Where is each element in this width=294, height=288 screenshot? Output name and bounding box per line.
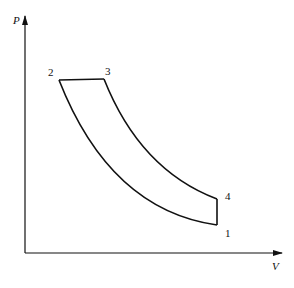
p-axis-label: P xyxy=(12,14,20,26)
point-label-1: 1 xyxy=(225,227,231,239)
point-label-2: 2 xyxy=(48,66,54,78)
v-axis-label: V xyxy=(272,260,280,272)
cycle-path xyxy=(59,79,217,225)
point-label-3: 3 xyxy=(105,65,111,77)
process-1-2 xyxy=(59,80,217,225)
pv-diagram: P V 2 3 4 1 xyxy=(0,0,294,288)
point-label-4: 4 xyxy=(225,190,231,202)
process-3-4 xyxy=(104,79,217,199)
process-2-3 xyxy=(59,79,104,80)
